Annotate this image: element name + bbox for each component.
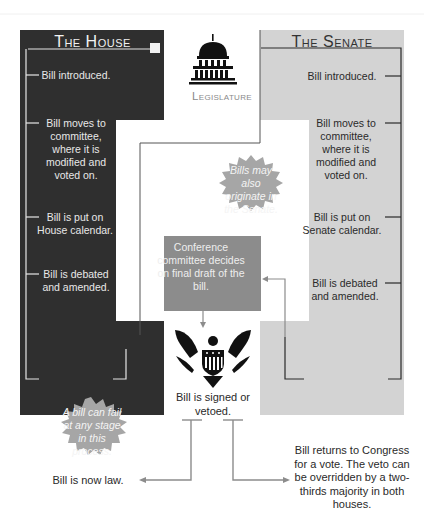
house-step-calendar: Bill is put on House calendar. — [36, 211, 114, 237]
house-step-introduced: Bill introduced. — [40, 69, 112, 82]
house-step-committee: Bill moves to committee, where it is mod… — [36, 117, 116, 182]
legislature-label: Legislature — [182, 90, 262, 102]
conference-committee-text: Conference committee decides on final dr… — [151, 241, 251, 293]
arrowhead-icon — [262, 276, 268, 282]
senate-title: The Senate — [262, 33, 402, 51]
outcome-arrows — [143, 420, 286, 480]
senate-step-calendar: Bill is put on Senate calendar. — [300, 211, 384, 237]
house-step-debated: Bill is debated and amended. — [40, 268, 112, 294]
arrowhead-icon — [200, 322, 206, 328]
arrowhead-icon — [139, 477, 146, 483]
arrowhead-icon — [283, 477, 290, 483]
senate-origin-note: Bills may also originate in the Senate. — [222, 164, 280, 216]
house-title: The House — [20, 33, 165, 51]
capitol-building-icon — [189, 34, 237, 85]
senate-step-introduced: Bill introduced. — [300, 70, 384, 83]
outcome-veto: Bill returns to Congress for a vote. The… — [292, 444, 412, 512]
executive-decision-text: Bill is signed or vetoed. — [163, 391, 263, 418]
senate-step-debated: Bill is debated and amended. — [306, 277, 384, 303]
outcome-law: Bill is now law. — [40, 474, 136, 488]
senate-step-committee: Bill moves to committee, where it is mod… — [307, 117, 385, 182]
fail-note: A bill can fail at any stage in this pro… — [60, 406, 124, 458]
